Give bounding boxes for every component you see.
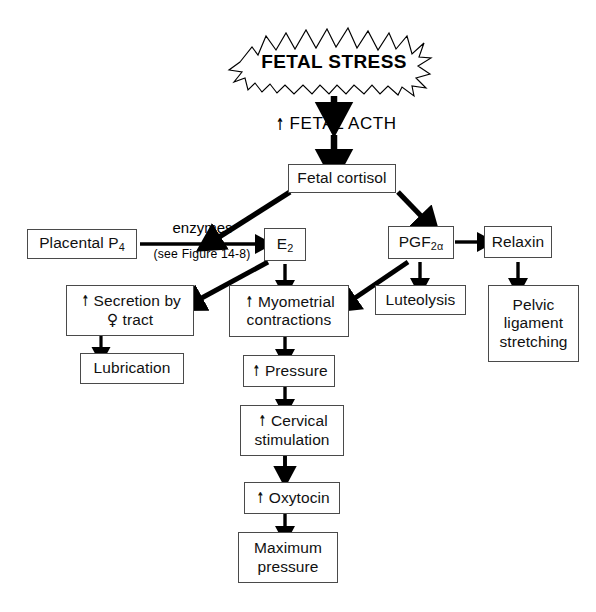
node-fetal-acth: ↑ FETAL ACTH bbox=[255, 113, 415, 135]
node-fetal-stress-label: FETAL STRESS bbox=[261, 51, 407, 73]
node-pressure-label: ↑Pressure bbox=[245, 362, 332, 381]
increase-arrow-icon: ↑ bbox=[246, 294, 254, 312]
node-myometrial-contractions: ↑Myometrial contractions bbox=[229, 285, 349, 337]
edge-label-enzymes: enzymes bbox=[145, 219, 260, 236]
node-oxytocin-label: ↑Oxytocin bbox=[249, 489, 335, 508]
node-e2-label: E2 bbox=[272, 235, 299, 255]
node-pelvic-ligament-label: Pelvic ligament stretching bbox=[494, 296, 572, 351]
node-placental-p4: Placental P4 bbox=[27, 229, 137, 259]
node-luteolysis-label: Luteolysis bbox=[381, 291, 461, 309]
node-pelvic-ligament-stretching: Pelvic ligament stretching bbox=[488, 285, 579, 362]
node-e2: E2 bbox=[264, 228, 306, 261]
node-pgf2a: PGF2α bbox=[388, 226, 454, 259]
node-placental-p4-label: Placental P4 bbox=[34, 234, 130, 254]
increase-arrow-icon: ↑ bbox=[259, 413, 267, 431]
node-cervical-stimulation: ↑Cervical stimulation bbox=[240, 405, 344, 456]
increase-arrow-icon: ↑ bbox=[257, 490, 265, 508]
node-pgf2a-label: PGF2α bbox=[394, 233, 449, 253]
node-fetal-cortisol-label: Fetal cortisol bbox=[292, 169, 391, 187]
node-fetal-acth-label: FETAL ACTH bbox=[290, 114, 397, 134]
female-symbol-icon: ♀ bbox=[107, 311, 118, 329]
edge-cortisol-to-pgf bbox=[398, 192, 424, 219]
node-lubrication-label: Lubrication bbox=[89, 359, 176, 377]
node-myometrial-label: ↑Myometrial contractions bbox=[238, 293, 339, 330]
node-maximum-pressure-label: Maximum pressure bbox=[249, 539, 327, 576]
node-oxytocin: ↑Oxytocin bbox=[244, 482, 340, 514]
node-lubrication: Lubrication bbox=[80, 353, 184, 384]
node-fetal-cortisol: Fetal cortisol bbox=[288, 164, 396, 193]
increase-arrow-icon: ↑ bbox=[81, 293, 89, 311]
node-cervical-label: ↑Cervical stimulation bbox=[249, 412, 334, 449]
node-maximum-pressure: Maximum pressure bbox=[238, 532, 338, 583]
node-secretion-female-tract: ↑Secretion by ♀ tract bbox=[66, 285, 194, 336]
node-relaxin: Relaxin bbox=[484, 226, 552, 258]
increase-arrow-icon: ↑ bbox=[276, 115, 285, 134]
node-luteolysis: Luteolysis bbox=[375, 285, 466, 315]
node-fetal-stress: FETAL STRESS bbox=[250, 48, 418, 76]
edge-label-enzymes-note: (see Figure 14-8) bbox=[137, 247, 267, 261]
increase-arrow-icon: ↑ bbox=[253, 363, 261, 381]
node-secretion-label: ↑Secretion by ♀ tract bbox=[74, 292, 186, 329]
node-pressure: ↑Pressure bbox=[243, 355, 335, 387]
node-relaxin-label: Relaxin bbox=[487, 233, 549, 251]
figure-canvas: FETAL STRESS ↑ FETAL ACTH Fetal cortisol… bbox=[0, 0, 596, 612]
